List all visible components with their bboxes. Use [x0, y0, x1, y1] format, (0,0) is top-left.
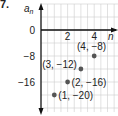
data-point	[92, 54, 97, 59]
y-axis-label: an	[24, 3, 34, 15]
point-label: (4, −8)	[77, 41, 106, 52]
point-label: (3, −12)	[42, 59, 77, 70]
scatter-chart: 7. an n 240−8−16 (1, −20)(2, −16)(3, −12…	[0, 0, 118, 116]
problem-number: 7.	[0, 0, 9, 10]
y-axis-arrow-down-icon	[39, 108, 44, 115]
point-label: (1, −20)	[58, 90, 93, 101]
x-axis-label: n	[108, 31, 114, 42]
data-point	[79, 67, 84, 72]
data-point	[52, 93, 57, 98]
y-tick-label: −16	[18, 77, 35, 88]
point-label: (2, −16)	[72, 77, 107, 88]
y-tick-label: 0	[29, 25, 35, 36]
x-tick-label: 2	[65, 31, 71, 42]
data-point	[65, 80, 70, 85]
y-tick-label: −8	[24, 51, 36, 62]
